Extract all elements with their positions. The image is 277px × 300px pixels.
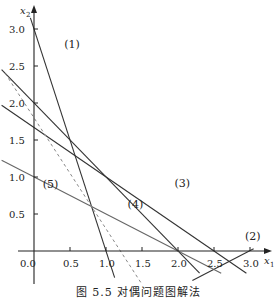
constraint-lines <box>2 18 254 284</box>
x-tick-label: 2.5 <box>207 258 223 269</box>
line-label: (2) <box>245 230 261 243</box>
x-tick-label: 0.0 <box>20 258 36 269</box>
x-tick-label: 3.0 <box>243 258 259 269</box>
line-label: (5) <box>43 178 59 191</box>
y-axis-arrow-icon <box>31 5 37 13</box>
y-tick-label: 3.0 <box>9 24 25 35</box>
dual-problem-graph: 0.00.51.01.52.02.53.00.51.01.52.02.53.0x… <box>0 0 277 300</box>
x-axis-arrow-icon <box>264 248 272 254</box>
y-tick-label: 2.5 <box>9 61 25 72</box>
axes: 0.00.51.01.52.02.53.00.51.01.52.02.53.0x… <box>9 5 274 284</box>
x-axis-label-sub: 1 <box>270 261 274 269</box>
constraint-line <box>5 73 142 284</box>
line-label: (4) <box>128 198 144 211</box>
constraint-line <box>30 18 114 278</box>
figure-caption: 图 5.5 对偶问题图解法 <box>0 283 277 299</box>
y-tick-label: 0.5 <box>9 209 25 220</box>
constraint-line <box>2 105 247 273</box>
x-tick-label: 2.0 <box>171 258 187 269</box>
y-tick-label: 2.0 <box>9 98 25 109</box>
constraint-line <box>2 70 200 274</box>
x-tick-label: 1.5 <box>135 258 151 269</box>
line-labels: (1)(2)(3)(4)(5) <box>43 38 261 243</box>
x-tick-label: 1.0 <box>99 258 115 269</box>
y-tick-label: 1.0 <box>9 172 25 183</box>
y-tick-label: 1.5 <box>9 135 25 146</box>
line-label: (1) <box>64 38 80 51</box>
x-tick-label: 0.5 <box>63 258 79 269</box>
y-axis-label-sub: 2 <box>26 11 30 19</box>
line-label: (3) <box>174 177 190 190</box>
